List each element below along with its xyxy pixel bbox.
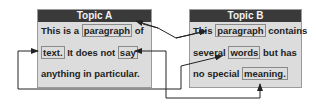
link-text-words xyxy=(18,51,181,89)
connector-arrows xyxy=(0,0,316,108)
